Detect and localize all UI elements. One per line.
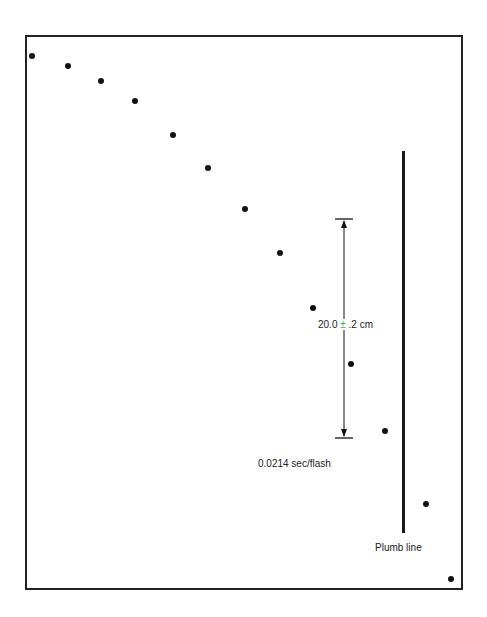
measurement-tolerance: .2 cm: [349, 319, 373, 330]
plumb-line: [402, 151, 405, 533]
arrow-up-icon: [341, 220, 347, 228]
measurement-label: 20.0 ± .2 cm: [318, 319, 373, 330]
plumb-line-label: Plumb line: [375, 542, 422, 553]
arrow-down-icon: [341, 429, 347, 437]
measurement-value: 20.0: [318, 319, 337, 330]
measurement-arrow: [0, 0, 487, 617]
plus-minus-icon: ±: [340, 319, 346, 330]
flash-rate-label: 0.0214 sec/flash: [258, 458, 331, 469]
